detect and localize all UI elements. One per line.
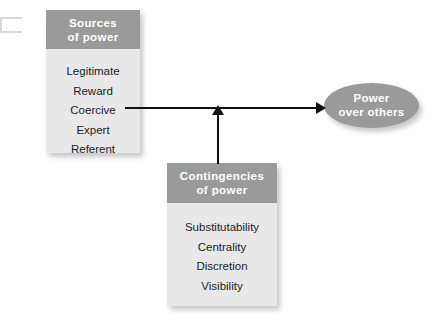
list-item: Centrality — [167, 242, 277, 254]
outcome-line-1: Power — [339, 92, 405, 106]
power-over-others-ellipse: Power over others — [324, 83, 419, 128]
list-item: Reward — [46, 86, 140, 98]
diagram-canvas: Sources of power Legitimate Reward Coerc… — [0, 0, 439, 326]
scan-artifact-line-left — [0, 17, 2, 33]
power-over-others-label: Power over others — [339, 92, 405, 119]
contingencies-of-power-list: Substitutability Centrality Discretion V… — [167, 203, 277, 292]
arrow-up-icon — [212, 105, 224, 115]
contingencies-header-line-2: of power — [167, 184, 277, 198]
list-item: Legitimate — [46, 66, 140, 78]
list-item: Discretion — [167, 261, 277, 273]
sources-of-power-header: Sources of power — [46, 10, 140, 49]
sources-header-line-2: of power — [46, 31, 140, 45]
contingencies-header-line-1: Contingencies — [167, 170, 277, 184]
list-item: Substitutability — [167, 222, 277, 234]
scan-artifact-line-bottom — [0, 31, 22, 33]
list-item: Visibility — [167, 281, 277, 293]
contingencies-of-power-header: Contingencies of power — [167, 163, 277, 203]
scan-artifact-line-top — [0, 17, 22, 19]
sources-of-power-box: Sources of power Legitimate Reward Coerc… — [46, 10, 140, 153]
arrow-right-icon — [316, 102, 326, 114]
contingencies-of-power-box: Contingencies of power Substitutability … — [167, 163, 277, 306]
list-item: Expert — [46, 125, 140, 137]
sources-of-power-list: Legitimate Reward Coercive Expert Refere… — [46, 49, 140, 156]
outcome-line-2: over others — [339, 106, 405, 120]
sources-header-line-1: Sources — [46, 17, 140, 31]
list-item: Referent — [46, 144, 140, 156]
contingencies-to-link-line — [217, 113, 219, 164]
